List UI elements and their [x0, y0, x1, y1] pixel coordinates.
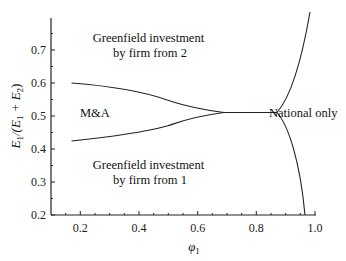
y-tick-label: 0.5 [31, 109, 46, 123]
x-tick-label: 0.6 [190, 221, 205, 235]
national-upper-boundary [277, 12, 310, 113]
y-tick-label: 0.7 [31, 43, 46, 57]
chart: 0.2 0.3 0.4 0.5 0.6 0.7 0.2 0.4 0.6 0.8 … [0, 0, 346, 261]
y-tick-label: 0.2 [31, 208, 46, 222]
x-tick-label: 0.8 [249, 221, 264, 235]
region-label-greenfield-firm1: Greenfield investment by firm from 1 [93, 158, 208, 187]
y-tick-label: 0.3 [31, 175, 46, 189]
y-tick-label: 0.4 [31, 142, 46, 156]
y-axis-title: E1/(E1 + E2) [8, 84, 25, 150]
x-tick-label: 0.4 [132, 221, 147, 235]
region-label-national-only: National only [269, 106, 338, 120]
x-axis-title: φ1 [188, 239, 200, 256]
x-tick-label: 0.2 [73, 221, 88, 235]
x-tick-label: 1.0 [308, 221, 323, 235]
y-tick-label: 0.6 [31, 76, 46, 90]
national-lower-boundary [277, 113, 305, 216]
region-label-ma: M&A [80, 106, 110, 120]
region-label-greenfield-firm2: Greenfield investment by firm from 2 [93, 31, 208, 60]
